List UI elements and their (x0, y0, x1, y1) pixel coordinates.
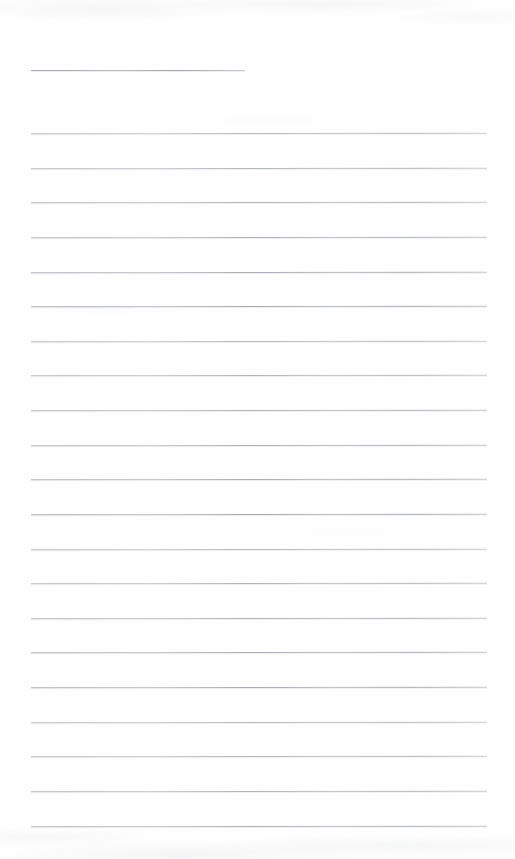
rule-line (31, 237, 487, 239)
rule-line (31, 479, 487, 480)
rule-line (31, 341, 487, 342)
notebook-page (0, 0, 515, 859)
rule-line (31, 791, 487, 793)
rule-line (31, 202, 487, 204)
rule-line (31, 722, 487, 724)
rule-line (31, 514, 487, 515)
rule-line (31, 583, 487, 585)
rule-line (31, 652, 487, 653)
rule-line (31, 375, 487, 377)
paper-grain-texture (0, 0, 515, 859)
rule-line (31, 306, 487, 307)
rule-line (31, 549, 487, 551)
rule-line (31, 133, 487, 134)
rule-line (31, 687, 487, 688)
rule-line (31, 168, 487, 169)
title-rule (31, 70, 245, 71)
rule-line (31, 445, 487, 447)
rule-line (31, 410, 487, 412)
rule-line (31, 756, 487, 758)
rule-line (31, 618, 487, 620)
rule-line (31, 826, 487, 827)
rule-line (31, 272, 487, 274)
